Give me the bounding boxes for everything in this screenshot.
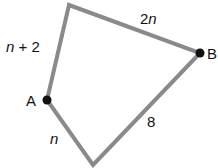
quadrilateral-edges bbox=[47, 5, 200, 165]
vertex-a-dot bbox=[43, 96, 52, 105]
side-label-top-b: 2n bbox=[140, 10, 157, 27]
vertex-b-dot bbox=[196, 49, 205, 58]
vertex-a-label: A bbox=[26, 92, 36, 109]
vertex-b-label: B bbox=[207, 45, 217, 62]
quadrilateral-diagram: A B n + 2 2n 8 n bbox=[0, 0, 218, 168]
side-label-bottom-a: n bbox=[50, 130, 58, 147]
side-label-a-top: n + 2 bbox=[6, 38, 40, 55]
side-label-b-bottom: 8 bbox=[147, 113, 155, 130]
